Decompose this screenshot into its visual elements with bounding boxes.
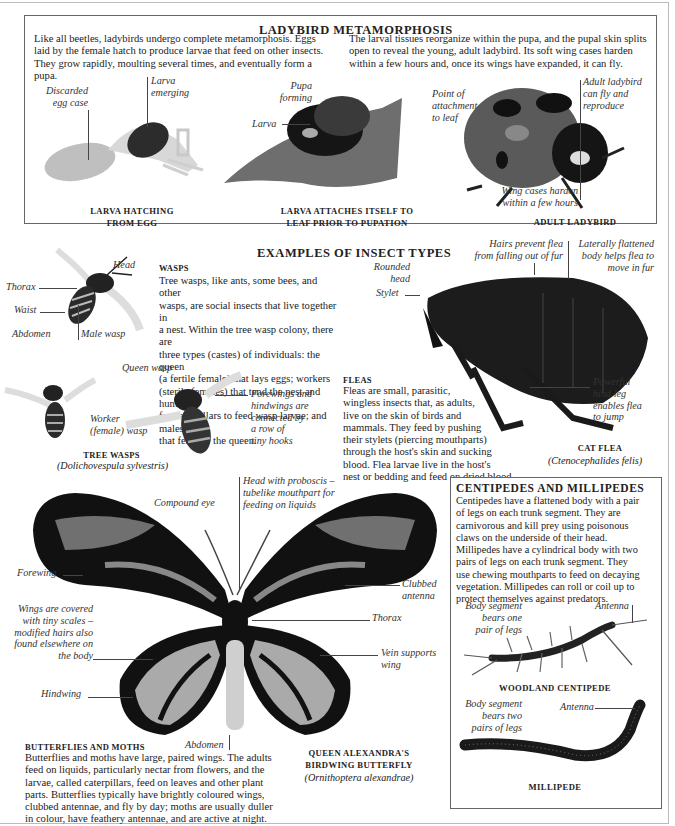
label-pupa-forming: Pupa forming [262, 80, 312, 104]
butterflies-text: Butterflies and moths have large, paired… [25, 752, 325, 826]
woodland-centipede-caption: WOODLAND CENTIPEDE [490, 682, 620, 694]
label-butterfly-thorax: Thorax [372, 612, 401, 624]
label-adult-ladybird: Adult ladybird can fly and reproduce [583, 76, 642, 111]
leader-line [320, 655, 378, 656]
label-discarded-egg-case: Discarded egg case [30, 85, 88, 109]
leader-line [282, 124, 310, 125]
leader-line [147, 77, 148, 127]
insect-types-title: EXAMPLES OF INSECT TYPES [257, 246, 451, 261]
label-male-wasp: Male wasp [81, 328, 125, 340]
label-wing-cases: Wing cases harden within a few hours [434, 185, 578, 209]
label-powerful-hind-leg: Powerful hind leg enables flea to jump [593, 376, 642, 423]
tree-wasps-scientific-name: (Dolichovespula sylvestris) [50, 460, 175, 471]
leader-line [78, 305, 79, 340]
label-wasp-thorax: Thorax [6, 281, 35, 293]
leader-line [595, 708, 635, 709]
butterflies-heading: BUTTERFLIES AND MOTHS [25, 742, 145, 752]
leader-line [40, 312, 65, 313]
cat-flea-scientific-name: (Ctenocephalides felis) [520, 455, 670, 466]
ladybird-intro-right: The larval tissues reorganize within the… [349, 33, 659, 70]
label-wasp-waist: Waist [14, 304, 36, 316]
leader-line [229, 735, 230, 750]
label-centipede-antenna: Antenna [595, 600, 629, 612]
label-hairs-prevent-flea: Hairs prevent flea from falling out of f… [453, 238, 563, 262]
leader-line [63, 575, 83, 576]
label-wasp-head: Head [113, 259, 135, 271]
leader-line [405, 295, 420, 296]
label-compound-eye: Compound eye [154, 497, 215, 509]
label-stylet: Stylet [376, 287, 399, 299]
caption-adult-ladybird: ADULT LADYBIRD [515, 216, 635, 228]
pupa-on-leaf-illustration [222, 88, 412, 198]
leader-line [632, 605, 633, 623]
butterfly-caption: QUEEN ALEXANDRA'S BIRDWING BUTTERFLY [293, 747, 425, 771]
wasps-heading: WASPS [159, 263, 189, 273]
leader-line [580, 80, 581, 200]
cat-flea-caption: CAT FLEA [555, 443, 645, 453]
caption-larva-hatching: LARVA HATCHING FROM EGG [72, 205, 192, 229]
label-body-segment-one-pair: Body segment bears one pair of legs [455, 600, 522, 635]
centipedes-heading: CENTIPEDES AND MILLIPEDES [456, 482, 644, 494]
worker-wasp-illustration [5, 375, 95, 445]
label-wings-covered-scales: Wings are covered with tiny scales – mod… [2, 603, 93, 662]
butterfly-scientific-name: (Ornithoptera alexandrae) [283, 772, 435, 783]
label-hindwing: Hindwing [41, 688, 81, 700]
label-abdomen: Abdomen [185, 739, 223, 751]
label-forewings-hindwings: Forewings and hindwings are connected by… [251, 388, 312, 447]
leader-line [530, 387, 590, 388]
centipedes-text: Centipedes have a flattened body with a … [456, 495, 656, 606]
leader-line [88, 110, 89, 160]
label-head-with-proboscis: Head with proboscis – tubelike mouthpart… [243, 475, 335, 510]
fleas-heading: FLEAS [343, 375, 372, 385]
caption-larva-attaches: LARVA ATTACHES ITSELF TO LEAF PRIOR TO P… [262, 205, 432, 229]
millipede-caption: MILLIPEDE [510, 781, 600, 793]
leader-line [345, 585, 400, 586]
tree-wasps-caption: TREE WASPS [54, 450, 169, 460]
label-clubbed-antenna: Clubbed antenna [402, 578, 437, 602]
label-rounded-head: Rounded head [360, 261, 410, 285]
leader-line [39, 288, 77, 289]
label-forewing: Forewing [17, 567, 56, 579]
label-millipede-antenna: Antenna [560, 701, 594, 713]
label-body-segment-two-pairs: Body segment bears two pairs of legs [455, 698, 522, 733]
fleas-text: Fleas are small, parasitic, wingless ins… [343, 385, 533, 483]
leader-line [215, 395, 248, 396]
leader-line [93, 659, 153, 660]
label-wasp-abdomen: Abdomen [12, 328, 50, 340]
leader-line [239, 477, 240, 589]
leader-line [534, 263, 535, 275]
leader-line [252, 620, 370, 621]
label-queen-wasp: Queen wasp [122, 362, 172, 374]
label-vein-supports-wing: Vein supports wing [381, 647, 436, 671]
label-larva: Larva [252, 118, 276, 130]
larva-hatching-illustration [38, 110, 218, 190]
leader-line [88, 697, 133, 698]
label-larva-emerging: Larva emerging [151, 75, 189, 99]
label-laterally-flattened: Laterally flattened body helps flea to m… [563, 238, 654, 273]
leader-line [568, 241, 569, 279]
